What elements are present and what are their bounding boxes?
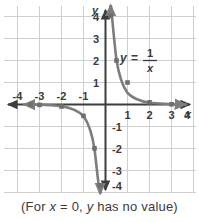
equation-denominator: x bbox=[146, 62, 154, 74]
data-point bbox=[147, 100, 152, 105]
y-tick-label: 1 bbox=[93, 77, 99, 89]
data-point bbox=[37, 103, 42, 108]
data-point bbox=[59, 104, 64, 109]
x-tick-label: -1 bbox=[79, 90, 89, 102]
equation-equals: = bbox=[131, 51, 138, 65]
data-point bbox=[108, 14, 113, 19]
data-point bbox=[28, 102, 33, 107]
y-axis-label: y bbox=[91, 4, 99, 16]
x-tick-label: 1 bbox=[124, 109, 130, 121]
y-tick-label: -1 bbox=[112, 121, 122, 133]
y-tick-label: -2 bbox=[112, 143, 122, 155]
x-tick-label: 2 bbox=[146, 109, 152, 121]
y-tick-label: -3 bbox=[112, 165, 122, 177]
x-axis-label: x bbox=[184, 108, 192, 120]
equation-numerator: 1 bbox=[147, 47, 153, 59]
equation-lhs: y bbox=[119, 51, 128, 65]
data-point bbox=[114, 58, 119, 63]
caption-open: (For bbox=[21, 199, 49, 214]
x-tick-label: -2 bbox=[57, 90, 67, 102]
y-tick-label: -4 bbox=[112, 180, 123, 192]
y-tick-label: 2 bbox=[93, 55, 99, 67]
function-graph-figure: -4 -3 -2 -1 1 2 3 4 4 3 2 1 -1 -2 -3 -4 … bbox=[0, 0, 199, 222]
data-point bbox=[125, 80, 130, 85]
data-point bbox=[98, 183, 103, 188]
cartesian-plot: -4 -3 -2 -1 1 2 3 4 4 3 2 1 -1 -2 -3 -4 … bbox=[0, 0, 199, 199]
x-tick-label: -4 bbox=[13, 90, 24, 102]
x-tick-label: 3 bbox=[168, 109, 174, 121]
y-tick-label: 3 bbox=[93, 33, 99, 45]
data-point bbox=[169, 102, 174, 107]
data-point bbox=[81, 114, 86, 119]
figure-caption: (For x = 0, y has no value) bbox=[0, 199, 199, 214]
caption-tail: has no value) bbox=[93, 199, 177, 214]
caption-equals-zero: = 0, bbox=[56, 199, 86, 214]
x-tick-label: -3 bbox=[35, 90, 45, 102]
plot-background bbox=[0, 0, 199, 199]
data-point bbox=[92, 146, 97, 151]
